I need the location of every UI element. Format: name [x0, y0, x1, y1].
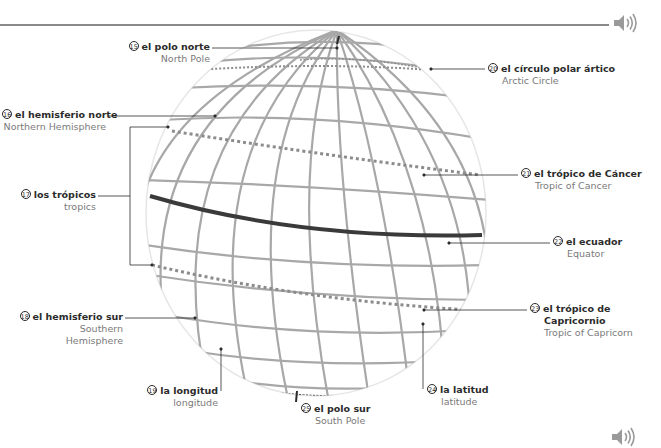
- number-badge: 21: [521, 168, 531, 178]
- label-south-pole: 25el polo sur South Pole: [301, 403, 371, 427]
- number-badge: 23: [530, 303, 540, 313]
- number-badge: 25: [301, 403, 311, 413]
- label-southern-hemisphere: 18el hemisferio sur Southern Hemisphere: [10, 311, 123, 347]
- label-equator: 22el ecuador Equator: [553, 236, 622, 260]
- label-arctic-circle: 20el círculo polar ártico Arctic Circle: [488, 63, 615, 87]
- south-pole-axis: [296, 391, 297, 402]
- globe-outline: [146, 30, 486, 396]
- number-badge: 18: [20, 311, 30, 321]
- label-northern-hemisphere: 16el hemisferio norte Northern Hemispher…: [2, 109, 106, 133]
- label-tropic-of-cancer: 21el trópico de Cáncer Tropic of Cancer: [521, 168, 642, 192]
- label-latitude: 24la latitud latitude: [427, 384, 489, 408]
- number-badge: 19: [147, 385, 157, 395]
- number-badge: 16: [2, 109, 12, 119]
- number-badge: 24: [427, 384, 437, 394]
- number-badge: 17: [21, 189, 31, 199]
- number-badge: 15: [129, 41, 139, 51]
- number-badge: 22: [553, 236, 563, 246]
- number-badge: 20: [488, 63, 498, 73]
- label-tropic-of-capricorn: 23el trópico de Capricornio Tropic of Ca…: [530, 303, 633, 339]
- label-north-pole: 15el polo norte North Pole: [128, 41, 210, 65]
- label-longitude: 19la longitud longitude: [140, 385, 218, 409]
- label-tropics: 17los trópicos tropics: [20, 189, 96, 213]
